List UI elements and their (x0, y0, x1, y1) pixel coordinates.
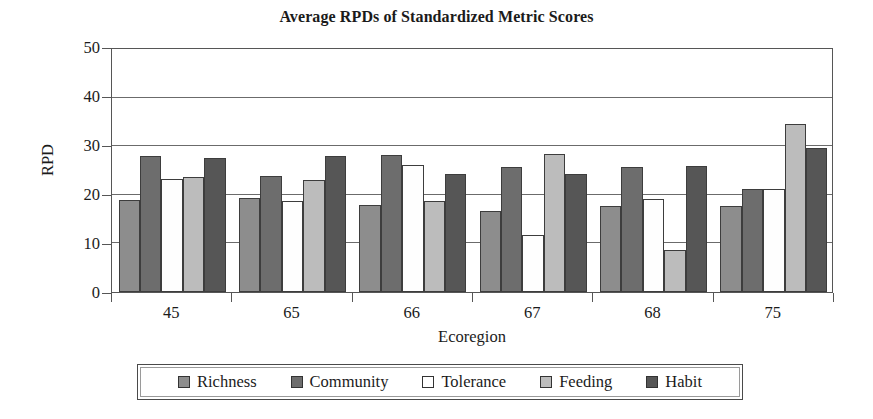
y-tick-mark (102, 48, 111, 49)
x-tick-label-66: 66 (372, 303, 452, 323)
x-tick-mark (472, 293, 473, 302)
y-tick-label: 30 (55, 136, 100, 156)
y-tick-mark (102, 97, 111, 98)
legend-item-richness[interactable]: Richness (178, 372, 257, 392)
bar-group-66 (359, 49, 466, 292)
y-tick-label: 40 (55, 87, 100, 107)
legend-item-community[interactable]: Community (291, 372, 389, 392)
legend-label: Tolerance (441, 372, 506, 392)
bar-richness-65 (239, 198, 260, 292)
x-tick-mark (231, 293, 232, 302)
bar-community-45 (140, 156, 161, 292)
bar-community-68 (621, 167, 642, 292)
bar-habit-67 (565, 174, 586, 292)
bar-feeding-67 (544, 154, 565, 292)
x-tick-label-67: 67 (492, 303, 572, 323)
x-tick-mark (352, 293, 353, 302)
bar-group-45 (119, 49, 226, 292)
bar-habit-66 (445, 174, 466, 292)
x-tick-label-68: 68 (613, 303, 693, 323)
chart-title: Average RPDs of Standardized Metric Scor… (0, 8, 873, 26)
bar-habit-68 (686, 166, 707, 292)
legend-swatch-habit-icon (646, 376, 658, 388)
bar-richness-45 (119, 200, 140, 292)
y-tick-mark (102, 195, 111, 196)
legend-swatch-feeding-icon (540, 376, 552, 388)
y-tick-label: 0 (55, 283, 100, 303)
bar-feeding-65 (303, 180, 324, 292)
bar-richness-75 (720, 206, 741, 292)
x-tick-mark (111, 293, 112, 302)
bar-tolerance-75 (763, 189, 784, 292)
bar-group-65 (239, 49, 346, 292)
legend-swatch-richness-icon (178, 376, 190, 388)
x-tick-mark (713, 293, 714, 302)
chart-figure: Average RPDs of Standardized Metric Scor… (0, 0, 873, 419)
legend-item-tolerance[interactable]: Tolerance (422, 372, 506, 392)
bar-community-75 (742, 189, 763, 292)
y-tick-label: 50 (55, 38, 100, 58)
plot-area (111, 48, 833, 293)
legend-label: Feeding (559, 372, 612, 392)
x-tick-label-75: 75 (733, 303, 813, 323)
bar-tolerance-68 (643, 199, 664, 292)
y-tick-mark (102, 244, 111, 245)
legend-label: Richness (197, 372, 257, 392)
x-axis-title: Ecoregion (111, 327, 833, 347)
bar-tolerance-45 (161, 179, 182, 292)
bar-community-67 (501, 167, 522, 292)
bar-community-66 (381, 155, 402, 292)
bar-tolerance-66 (402, 165, 423, 292)
bar-habit-45 (204, 158, 225, 292)
bar-feeding-68 (664, 250, 685, 292)
x-tick-label-65: 65 (252, 303, 332, 323)
bar-habit-75 (806, 148, 827, 292)
y-tick-label: 20 (55, 185, 100, 205)
legend-item-feeding[interactable]: Feeding (540, 372, 612, 392)
bar-richness-66 (359, 205, 380, 292)
legend-item-habit[interactable]: Habit (646, 372, 702, 392)
bar-richness-67 (480, 211, 501, 292)
x-tick-label-45: 45 (131, 303, 211, 323)
bar-tolerance-67 (522, 235, 543, 292)
bar-feeding-66 (424, 201, 445, 292)
y-tick-mark (102, 293, 111, 294)
bar-tolerance-65 (282, 201, 303, 292)
bar-feeding-75 (785, 124, 806, 292)
y-tick-mark (102, 146, 111, 147)
bar-richness-68 (600, 206, 621, 292)
x-tick-mark (592, 293, 593, 302)
chart-legend: RichnessCommunityToleranceFeedingHabit (137, 364, 743, 400)
bar-feeding-45 (183, 177, 204, 292)
legend-label: Community (310, 372, 389, 392)
bar-community-65 (260, 176, 281, 292)
bar-habit-65 (325, 156, 346, 292)
legend-label: Habit (665, 372, 702, 392)
legend-swatch-community-icon (291, 376, 303, 388)
bar-group-75 (720, 49, 827, 292)
bar-group-67 (480, 49, 587, 292)
y-tick-label: 10 (55, 234, 100, 254)
bar-group-68 (600, 49, 707, 292)
legend-swatch-tolerance-icon (422, 376, 434, 388)
x-tick-mark (833, 293, 834, 302)
